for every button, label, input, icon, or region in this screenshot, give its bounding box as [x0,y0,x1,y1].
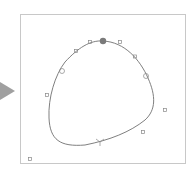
control-handle[interactable] [46,94,49,97]
control-handle[interactable] [164,109,167,112]
closed-bezier-curve[interactable] [49,41,154,145]
control-handle[interactable] [142,131,145,134]
control-handle[interactable] [29,158,32,161]
curve-layer[interactable] [0,0,195,174]
control-handle[interactable] [119,41,122,44]
selected-point[interactable] [100,38,106,44]
anchor-point[interactable] [60,69,65,74]
